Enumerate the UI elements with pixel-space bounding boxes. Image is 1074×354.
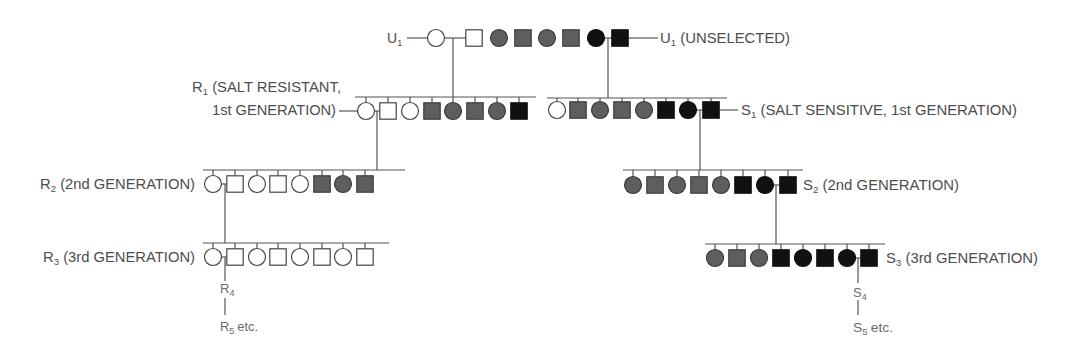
male-square-gray-symbol [357,176,373,192]
generation-s3 [707,244,878,267]
female-circle-open-symbol [292,176,309,193]
female-circle-open-symbol [249,176,266,193]
male-square-solid-symbol [861,250,877,266]
male-square-open-symbol [270,176,286,192]
male-square-gray-symbol [563,30,579,46]
male-square-open-symbol [270,249,286,265]
female-circle-gray-symbol [751,250,768,267]
generation-s2 [625,170,797,194]
female-circle-gray-symbol [707,250,724,267]
generation-s1 [549,98,720,119]
male-square-gray-symbol [614,102,630,118]
female-circle-open-symbol [292,249,309,266]
label-r4: R4 [220,281,234,298]
label-u1-unselected: U1(UNSELECTED) [660,30,790,48]
female-circle-gray-symbol [489,103,506,120]
male-square-gray-symbol [467,103,483,119]
male-square-open-symbol [227,176,243,192]
generation-r3 [205,243,374,266]
female-circle-gray-symbol [539,30,556,47]
male-square-open-symbol [227,249,243,265]
male-square-solid-symbol [773,250,789,266]
generation-r1 [358,97,528,120]
female-circle-gray-symbol [491,30,508,47]
male-square-open-symbol [466,30,482,46]
label-r5-etc: R5etc. [220,319,258,336]
female-circle-gray-symbol [592,102,609,119]
label-r2: R2(2nd GENERATION) [40,176,195,194]
male-square-gray-symbol [314,176,330,192]
female-circle-gray-symbol [335,176,352,193]
female-circle-open-symbol [205,249,222,266]
male-square-solid-symbol [817,250,833,266]
female-circle-gray-symbol [669,177,686,194]
male-square-gray-symbol [515,30,531,46]
male-square-gray-symbol [570,102,586,118]
male-square-solid-symbol [780,177,796,193]
labels: U1 U1(UNSELECTED) R1(SALT RESISTANT, 1st… [40,30,1038,337]
male-square-solid-symbol [511,103,527,119]
male-square-gray-symbol [647,177,663,193]
female-circle-open-symbol [249,249,266,266]
female-circle-solid-symbol [680,102,697,119]
male-square-solid-symbol [612,30,628,46]
male-square-open-symbol [357,249,373,265]
female-circle-gray-symbol [445,103,462,120]
female-circle-open-symbol [428,30,445,47]
label-r1-line1: R1(SALT RESISTANT, [192,79,341,97]
label-s4: S4 [853,285,867,302]
label-r1-line2: 1st GENERATION) [212,102,336,118]
male-square-gray-symbol [424,103,440,119]
male-square-open-symbol [314,249,330,265]
label-s2: S2(2nd GENERATION) [803,177,959,195]
female-circle-gray-symbol [713,177,730,194]
female-circle-gray-symbol [625,177,642,194]
female-circle-open-symbol [358,103,375,120]
label-r3: R3(3rd GENERATION) [43,249,195,267]
generation-r2 [205,170,374,193]
female-circle-solid-symbol [588,30,605,47]
female-circle-open-symbol [205,176,222,193]
male-square-gray-symbol [691,177,707,193]
label-u1-left: U1 [387,30,402,48]
label-s5-etc: S5etc. [853,320,893,337]
pedigree-diagram: U1 U1(UNSELECTED) R1(SALT RESISTANT, 1st… [0,0,1074,354]
female-circle-open-symbol [549,102,566,119]
male-square-solid-symbol [735,177,751,193]
male-square-gray-symbol [729,250,745,266]
female-circle-open-symbol [335,249,352,266]
male-square-solid-symbol [703,102,719,118]
female-circle-solid-symbol [795,250,812,267]
female-circle-solid-symbol [757,177,774,194]
female-circle-gray-symbol [636,102,653,119]
female-circle-solid-symbol [839,250,856,267]
label-s1: S1(SALT SENSITIVE, 1st GENERATION) [741,102,1017,120]
female-circle-open-symbol [402,103,419,120]
male-square-open-symbol [380,103,396,119]
male-square-solid-symbol [658,102,674,118]
label-s3: S3(3rd GENERATION) [886,250,1038,268]
